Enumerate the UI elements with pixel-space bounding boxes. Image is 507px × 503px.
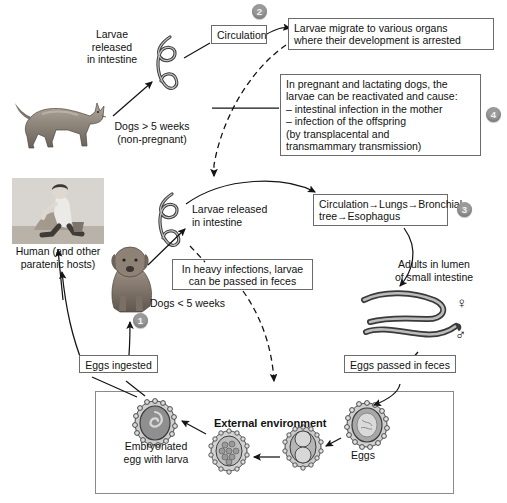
external-environment-label: External environment	[214, 417, 344, 430]
circulation-lungs-box: Circulation→Lungs→Bronchial tree→Esophag…	[313, 194, 448, 226]
eggs-passed-in-feces-box: Eggs passed in feces	[344, 355, 456, 373]
larvae-released-middle-label: Larvae released in intestine	[192, 203, 296, 228]
step-badge-3: 3	[457, 202, 472, 217]
step-badge-1: 1	[133, 313, 148, 328]
pregnant-lactating-box: In pregnant and lactating dogs, the larv…	[280, 74, 481, 156]
dogs-over-5-weeks-label: Dogs > 5 weeks (non-pregnant)	[100, 120, 204, 145]
step-badge-4: 4	[486, 107, 501, 122]
embryonated-egg-label: Embryonated egg with larva	[110, 440, 202, 465]
eggs-label: Eggs	[351, 449, 391, 462]
heavy-infections-box: In heavy infections, larvae can be passe…	[172, 259, 313, 290]
adults-in-lumen-label: Adults in lumen of small intestine	[378, 258, 490, 283]
male-symbol: ♂	[455, 329, 466, 342]
circulation-box: Circulation	[211, 25, 267, 44]
eggs-ingested-box: Eggs ingested	[79, 355, 158, 373]
larvae-released-top-label: Larvae released in intestine	[72, 28, 152, 66]
step-badge-2: 2	[252, 4, 267, 19]
female-symbol: ♀	[456, 297, 467, 310]
human-paratenic-hosts-label: Human (and other paratenic hosts)	[2, 245, 114, 270]
larvae-migrate-box: Larvae migrate to various organs where t…	[288, 18, 494, 50]
dogs-under-5-weeks-label: Dogs < 5 weeks	[150, 297, 242, 310]
life-cycle-diagram: Circulation Larvae migrate to various or…	[0, 0, 507, 503]
